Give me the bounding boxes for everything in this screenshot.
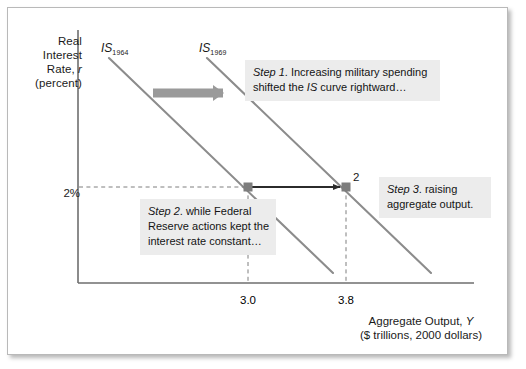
callout-step-2-line3: interest rate constant… — [148, 234, 268, 249]
callout-step-3-line1: Step 3. raising — [387, 182, 483, 197]
callout-step-2-line2: Reserve actions kept the — [148, 219, 268, 234]
y-axis-title: Real Interest Rate, r (percent) — [7, 34, 82, 90]
callout-step-3-line2: aggregate output. — [387, 197, 483, 212]
figure-panel: Real Interest Rate, r (percent) 2% 3.0 3… — [7, 7, 508, 355]
is-1969-label: IS1969 — [199, 41, 227, 56]
equilibrium-point-1 — [244, 183, 253, 192]
x-axis-title-line1: Aggregate Output, Y — [326, 314, 508, 328]
callout-step-1-line2: shifted the IS curve rightward… — [253, 80, 432, 95]
x-axis-title-line2: ($ trillions, 2000 dollars) — [326, 328, 508, 342]
y-tick-label-2pct: 2% — [42, 186, 80, 200]
is-1964-label: IS1964 — [101, 41, 129, 56]
callout-step-3: Step 3. raising aggregate output. — [379, 177, 491, 218]
equilibrium-point-2-label: 2 — [353, 171, 359, 183]
callout-step-1-line1: Step 1. Increasing military spending — [253, 65, 432, 80]
y-axis-title-line4: (percent) — [7, 76, 82, 90]
y-axis-title-line1: Real — [7, 34, 82, 48]
equilibrium-point-2 — [342, 183, 351, 192]
callout-step-2-line1: Step 2. while Federal — [148, 204, 268, 219]
x-tick-label-3-8: 3.8 — [326, 294, 366, 306]
y-axis-title-line3: Rate, r — [7, 62, 82, 76]
callout-step-1: Step 1. Increasing military spending shi… — [245, 60, 440, 101]
y-axis-title-line2: Interest — [7, 48, 82, 62]
callout-step-2: Step 2. while Federal Reserve actions ke… — [140, 199, 276, 255]
x-axis-title: Aggregate Output, Y ($ trillions, 2000 d… — [326, 314, 508, 342]
x-tick-label-3-0: 3.0 — [228, 294, 268, 306]
